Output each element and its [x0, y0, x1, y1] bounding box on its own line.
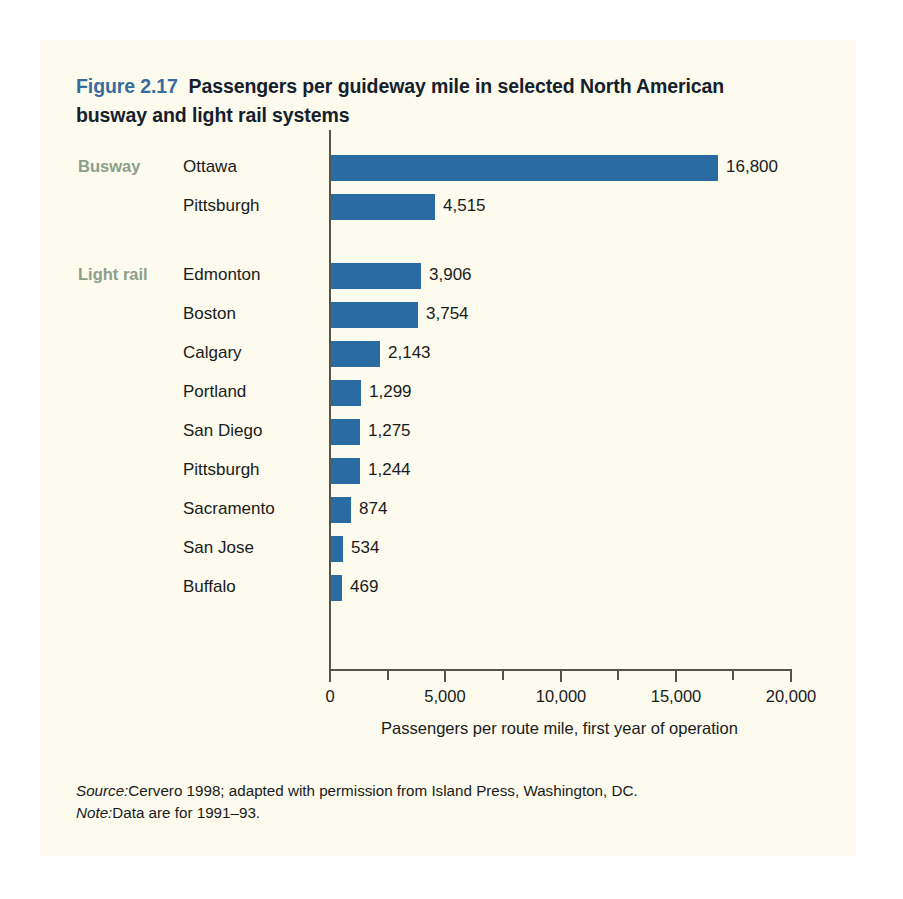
bar-value-label: 1,275	[368, 421, 411, 441]
category-label: Portland	[183, 382, 246, 402]
bar	[331, 536, 343, 562]
category-label: Calgary	[183, 343, 242, 363]
x-axis-minor-tick	[387, 671, 389, 680]
bar	[331, 341, 380, 367]
bar-chart: 16,8004,5153,9063,7542,1431,2991,2751,24…	[40, 40, 856, 856]
bar	[331, 302, 418, 328]
source-text: Cervero 1998; adapted with permission fr…	[128, 782, 637, 799]
bar-value-label: 3,754	[426, 304, 469, 324]
category-label: Sacramento	[183, 499, 275, 519]
bar	[331, 419, 360, 445]
bar-value-label: 469	[350, 577, 378, 597]
x-axis-minor-tick	[617, 671, 619, 680]
figure-page: Figure 2.17 Passengers per guideway mile…	[40, 40, 856, 856]
category-label: Ottawa	[183, 157, 237, 177]
bar-value-label: 534	[351, 538, 379, 558]
bar	[331, 380, 361, 406]
group-label: Light rail	[78, 265, 148, 284]
bar-value-label: 1,244	[368, 460, 411, 480]
group-label: Busway	[78, 157, 140, 176]
x-axis-major-tick	[560, 671, 562, 682]
x-axis-major-tick	[675, 671, 677, 682]
bar-value-label: 2,143	[388, 343, 431, 363]
bar-value-label: 4,515	[443, 196, 486, 216]
x-axis-title: Passengers per route mile, first year of…	[259, 719, 860, 738]
category-label: Pittsburgh	[183, 196, 260, 216]
bar	[331, 155, 718, 181]
x-axis-tick-label: 10,000	[536, 687, 586, 706]
category-label: San Jose	[183, 538, 254, 558]
x-axis-major-tick	[790, 671, 792, 682]
footnotes: Source:Cervero 1998; adapted with permis…	[76, 780, 816, 824]
x-axis-tick-label: 0	[325, 687, 334, 706]
bar	[331, 575, 342, 601]
x-axis-minor-tick	[732, 671, 734, 680]
category-label: Buffalo	[183, 577, 236, 597]
category-label: San Diego	[183, 421, 262, 441]
source-label: Source:	[76, 782, 128, 799]
bar	[331, 497, 351, 523]
bar-value-label: 16,800	[726, 157, 778, 177]
note-text: Data are for 1991–93.	[112, 804, 260, 821]
bar-value-label: 3,906	[429, 265, 472, 285]
x-axis-tick-label: 15,000	[651, 687, 701, 706]
source-line: Source:Cervero 1998; adapted with permis…	[76, 780, 816, 802]
x-axis-minor-tick	[502, 671, 504, 680]
bar	[331, 194, 435, 220]
note-line: Note:Data are for 1991–93.	[76, 802, 816, 824]
category-label: Boston	[183, 304, 236, 324]
bar-value-label: 1,299	[369, 382, 412, 402]
x-axis-tick-label: 20,000	[766, 687, 816, 706]
bar	[331, 263, 421, 289]
category-label: Edmonton	[183, 265, 261, 285]
bar	[331, 458, 360, 484]
x-axis-major-tick	[444, 671, 446, 682]
note-label: Note:	[76, 804, 112, 821]
x-axis-major-tick	[329, 671, 331, 682]
category-label: Pittsburgh	[183, 460, 260, 480]
bar-value-label: 874	[359, 499, 387, 519]
x-axis-tick-label: 5,000	[424, 687, 465, 706]
